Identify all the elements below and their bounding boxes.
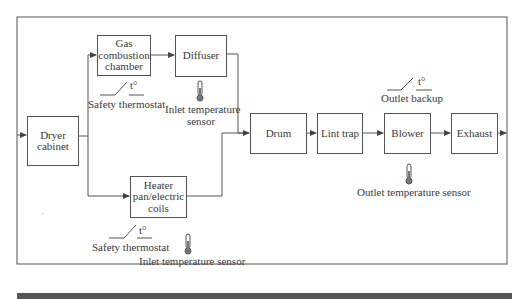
node-heater: Heaterpan/electriccoils (130, 176, 187, 218)
edge-heater-drum (186, 133, 238, 196)
gas-safety-label: Safety thermostat (88, 99, 165, 111)
node-diffuser: Diffuser (175, 35, 227, 77)
heater-safety-label: Safety thermostat (92, 242, 169, 254)
outlet-sensor-label: Outlet temperature sensor (357, 187, 471, 199)
node-blower: Blower (384, 113, 431, 154)
heater-safety-symbol: t° (139, 225, 146, 237)
node-exhaust: Exhaust (451, 113, 498, 154)
heater-sensor-label: Inlet temperature sensor (139, 256, 245, 268)
outlet-backup-symbol: t° (418, 76, 425, 88)
sensor-label-line: Inlet temperature (165, 104, 237, 116)
node-label: chamber (98, 61, 149, 73)
node-label: coils (133, 203, 184, 215)
diffuser-sensor-label: Inlet temperature sensor (165, 104, 237, 127)
node-label: Exhaust (457, 128, 492, 140)
outlet-backup-label: Outlet backup (381, 93, 443, 105)
node-label: cabinet (37, 141, 69, 153)
thermometer-icon-heater (185, 234, 191, 254)
sensor-label-line: sensor (165, 116, 237, 128)
node-dryer-cabinet: Dryercabinet (27, 116, 79, 166)
node-gas-combustion-chamber: Gascombustionchamber (97, 35, 151, 76)
speck (42, 213, 43, 214)
node-lint-trap: Lint trap (317, 113, 363, 154)
node-label: Drum (266, 128, 292, 140)
node-label: Lint trap (321, 128, 359, 140)
node-drum: Drum (250, 113, 307, 154)
gas-safety-symbol: t° (130, 80, 137, 92)
thermometer-icon-outlet (406, 164, 412, 184)
thermometer-icon-diffuser (197, 81, 203, 101)
node-label: Diffuser (183, 50, 219, 62)
bottom-rule (17, 293, 512, 299)
node-label: Blower (391, 128, 423, 140)
